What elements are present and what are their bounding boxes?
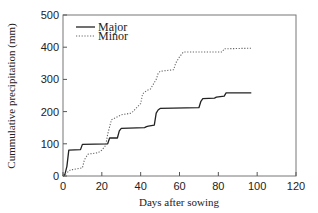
y-axis-title: Cummulative precipitation (mm) xyxy=(5,23,18,169)
y-tick-label: 300 xyxy=(41,73,59,85)
y-tick-label: 0 xyxy=(53,170,59,182)
x-axis-ticks: 020406080100120 xyxy=(60,172,305,192)
x-tick-label: 120 xyxy=(287,180,305,192)
series-line-major xyxy=(63,93,251,176)
x-tick-label: 40 xyxy=(135,180,147,192)
y-tick-label: 100 xyxy=(41,138,59,150)
x-tick-label: 20 xyxy=(96,180,108,192)
legend-label-minor: Minor xyxy=(98,29,128,43)
y-tick-label: 400 xyxy=(41,41,59,53)
legend: MajorMinor xyxy=(76,20,128,43)
x-tick-label: 100 xyxy=(248,180,266,192)
x-axis-title: Days after sowing xyxy=(139,196,220,208)
y-tick-label: 500 xyxy=(41,9,59,21)
y-tick-label: 200 xyxy=(41,106,59,118)
x-tick-label: 60 xyxy=(173,180,185,192)
x-tick-label: 0 xyxy=(60,180,66,192)
series-layer xyxy=(63,48,251,176)
x-tick-label: 80 xyxy=(212,180,224,192)
cumulative-precipitation-chart: 0100200300400500 020406080100120 MajorMi… xyxy=(0,0,318,213)
